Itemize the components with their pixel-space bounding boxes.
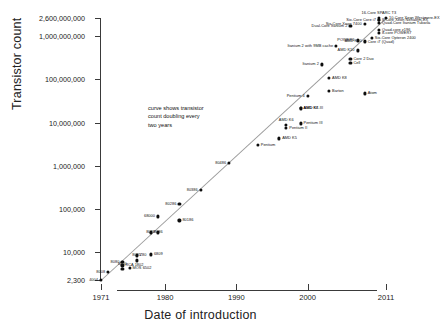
data-point: [178, 202, 181, 205]
data-point: [363, 92, 366, 95]
x-tick-label: 1980: [157, 293, 174, 302]
trend-annotation: curve shows transistor count doubling ev…: [148, 104, 204, 129]
y-tick-label: 10,000,000: [49, 118, 85, 127]
data-point: [228, 161, 231, 164]
data-point: [178, 219, 181, 222]
data-point-label: 80186: [182, 218, 193, 222]
data-point: [377, 31, 380, 34]
data-point: [121, 268, 124, 271]
data-point-label: Atom: [368, 91, 377, 95]
data-point-label: 10-Core Xeon Westmere-EX: [389, 16, 440, 20]
data-point: [363, 22, 366, 25]
data-point-label: Quad-Core Itanium Tukwila: [382, 21, 430, 25]
data-point-label: AMD K6: [279, 118, 294, 122]
x-tick: [101, 284, 102, 290]
data-point: [349, 61, 352, 64]
data-point-label: MOS 6502: [133, 266, 152, 270]
data-point-label: Itanium 2: [302, 62, 318, 66]
data-point: [199, 188, 202, 191]
y-tick-label: 2,600,000,000: [39, 14, 85, 23]
data-point: [278, 137, 281, 140]
data-point: [99, 278, 102, 281]
data-point-label: 80486: [215, 161, 226, 165]
x-axis-line: [117, 290, 377, 291]
data-point-label: AMD K7: [304, 106, 319, 110]
x-tick-label: 2000: [299, 293, 316, 302]
data-point-label: Core 2 Duo: [353, 57, 373, 61]
x-tick: [165, 284, 166, 290]
data-point-label: AMD K5: [282, 136, 297, 140]
y-tick-label: 1,000,000,000: [39, 31, 85, 40]
plot-area: 40048008RCA 18028080MOS 650280856800Z806…: [101, 18, 386, 280]
data-point-label: AMD K10: [345, 39, 362, 43]
data-point: [327, 77, 330, 80]
x-tick: [236, 284, 237, 290]
data-point: [256, 143, 259, 146]
y-axis-title: Transistor count: [10, 0, 24, 110]
y-tick-label: 10,000: [63, 248, 85, 257]
data-point-label: 8088: [146, 230, 155, 234]
data-point-label: 80286: [165, 201, 176, 205]
data-point-label: 16-Core SPARC T3: [362, 11, 397, 15]
data-point-label: Pentium II: [289, 126, 307, 130]
data-point-label: 80386: [187, 188, 198, 192]
data-point-label: Z80: [140, 253, 147, 257]
data-point: [363, 40, 366, 43]
y-tick-label: 100,000,000: [45, 75, 85, 84]
data-point-label: Core i7 (Quad): [368, 40, 394, 44]
trend-line: [101, 18, 387, 281]
data-point: [306, 94, 309, 97]
data-point: [156, 215, 159, 218]
x-tick-label: 1971: [93, 293, 110, 302]
x-tick: [308, 284, 309, 290]
data-point-label: Pentium 4: [287, 93, 305, 97]
data-point-label: 68000: [144, 214, 155, 218]
data-point-label: 6809: [154, 252, 163, 256]
data-point-label: AMD K8: [332, 76, 347, 80]
data-point: [285, 126, 288, 129]
data-point-label: Pentium: [261, 142, 276, 146]
data-point-label: 8008: [96, 270, 105, 274]
data-point: [349, 58, 352, 61]
y-tick-label: 100,000: [59, 205, 85, 214]
data-point-label: AMD K10: [338, 48, 355, 52]
data-point: [320, 63, 323, 66]
data-point: [356, 49, 359, 52]
data-point: [149, 253, 152, 256]
x-tick: [386, 284, 387, 290]
data-point-label: Six-Core Core i7: [346, 18, 376, 22]
x-tick-label: 1990: [228, 293, 245, 302]
x-tick-label: 2011: [378, 293, 394, 302]
data-point: [327, 89, 330, 92]
data-point-label: Six-Core Opteron 2400: [375, 36, 416, 40]
data-point-label: 8-core POWER7: [382, 30, 412, 34]
data-point-label: Pentium III: [304, 121, 323, 125]
y-tick-label: 1,000,000: [53, 161, 85, 170]
data-point-label: Itanium 2 with 9MB cache: [287, 44, 333, 48]
data-point-label: 6800: [118, 262, 127, 266]
data-point-label: 4004: [89, 278, 98, 282]
data-point-label: Barton: [332, 89, 344, 93]
x-axis-title: Date of introduction: [0, 308, 401, 322]
data-point: [128, 267, 131, 270]
y-tick-label: 2,300: [67, 276, 85, 285]
